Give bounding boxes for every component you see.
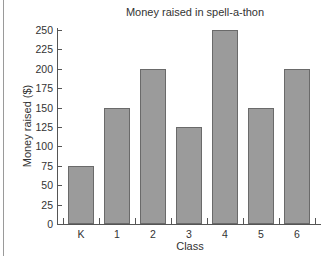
y-tick-mark — [57, 108, 62, 109]
y-tick-mark — [57, 146, 62, 147]
y-tick-mark — [57, 88, 62, 89]
x-tick-mark — [99, 218, 100, 224]
bar-3 — [176, 127, 202, 224]
bar-k — [68, 166, 94, 224]
x-tick-mark — [243, 218, 244, 224]
y-tick-label: 50 — [20, 179, 53, 191]
y-tick-mark — [57, 166, 62, 167]
y-tick-mark — [57, 49, 62, 50]
y-tick-label: 225 — [20, 43, 53, 55]
x-tick-label: 2 — [140, 228, 166, 240]
x-tick-mark — [135, 218, 136, 224]
x-tick-mark — [315, 218, 316, 224]
y-tick-mark — [57, 224, 62, 225]
y-tick-label: 25 — [20, 199, 53, 211]
y-tick-mark — [57, 205, 62, 206]
bar-5 — [248, 108, 274, 224]
bar-4 — [212, 30, 238, 224]
x-axis-line — [57, 224, 321, 225]
x-tick-label: 5 — [248, 228, 274, 240]
bar-2 — [140, 69, 166, 224]
plot-area: 0255075100125150175200225250K123456 — [0, 0, 333, 256]
y-axis-line — [57, 28, 58, 224]
x-tick-mark — [171, 218, 172, 224]
y-tick-mark — [57, 69, 62, 70]
y-tick-mark — [57, 185, 62, 186]
y-tick-label: 0 — [20, 218, 53, 230]
bar-6 — [284, 69, 310, 224]
x-tick-label: 6 — [284, 228, 310, 240]
x-tick-label: 1 — [104, 228, 130, 240]
y-tick-mark — [57, 127, 62, 128]
x-tick-mark — [207, 218, 208, 224]
x-tick-mark — [279, 218, 280, 224]
y-axis-title: Money raised ($) — [21, 85, 33, 168]
y-tick-mark — [57, 30, 62, 31]
x-tick-label: 3 — [176, 228, 202, 240]
x-axis-title: Class — [150, 240, 230, 252]
x-tick-label: 4 — [212, 228, 238, 240]
bar-1 — [104, 108, 130, 224]
y-tick-label: 250 — [20, 24, 53, 36]
x-tick-mark — [63, 218, 64, 224]
y-tick-label: 200 — [20, 63, 53, 75]
x-tick-label: K — [68, 228, 94, 240]
